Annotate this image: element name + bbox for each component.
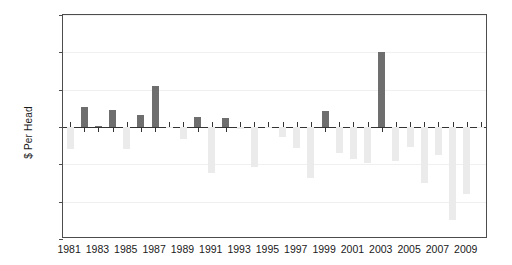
y-tick-mark bbox=[59, 90, 63, 91]
bar-1988 bbox=[166, 127, 173, 128]
x-tick-mark bbox=[113, 127, 114, 132]
bar-1989 bbox=[180, 127, 187, 139]
y-tick-mark bbox=[59, 127, 63, 128]
bar-2010 bbox=[477, 127, 484, 128]
x-tick-mark bbox=[98, 127, 99, 132]
bar-2009 bbox=[463, 127, 470, 194]
gridline bbox=[63, 52, 486, 53]
bar-1995 bbox=[265, 127, 272, 128]
x-tick-mark bbox=[141, 127, 142, 132]
bar-1997 bbox=[293, 127, 300, 148]
bar-2000 bbox=[336, 127, 343, 153]
y-tick-mark bbox=[59, 15, 63, 16]
bar-1987 bbox=[152, 86, 159, 127]
bar-2002 bbox=[364, 127, 371, 163]
bar-2008 bbox=[449, 127, 456, 220]
bar-2006 bbox=[421, 127, 428, 183]
chart-figure: $ Per Head 150100500−50−100−150 19811983… bbox=[0, 0, 512, 265]
bar-1982 bbox=[81, 107, 88, 127]
y-tick-mark bbox=[59, 164, 63, 165]
bar-1992 bbox=[222, 118, 229, 127]
x-tick-mark bbox=[382, 127, 383, 132]
plot-inner bbox=[63, 15, 486, 237]
gridline bbox=[63, 15, 486, 16]
x-tick-mark bbox=[84, 127, 85, 132]
bar-1986 bbox=[137, 115, 144, 127]
bar-1996 bbox=[279, 127, 286, 137]
x-tick-mark bbox=[198, 127, 199, 132]
bar-1983 bbox=[95, 126, 102, 127]
bar-2004 bbox=[392, 127, 399, 161]
bar-1981 bbox=[67, 127, 74, 149]
bar-2003 bbox=[378, 52, 385, 127]
gridline bbox=[63, 90, 486, 91]
bar-1991 bbox=[208, 127, 215, 173]
y-tick-mark bbox=[59, 239, 63, 240]
plot-area bbox=[62, 14, 487, 238]
y-tick-mark bbox=[59, 202, 63, 203]
bar-2001 bbox=[350, 127, 357, 159]
bar-1984 bbox=[109, 110, 116, 127]
x-tick-mark bbox=[226, 127, 227, 132]
bar-1999 bbox=[322, 111, 329, 127]
bar-1993 bbox=[237, 127, 244, 129]
x-tick-label: 2009 bbox=[446, 243, 486, 255]
bar-1998 bbox=[307, 127, 314, 178]
bar-1994 bbox=[251, 127, 258, 167]
gridline bbox=[63, 202, 486, 203]
bar-2005 bbox=[407, 127, 414, 147]
x-tick-mark bbox=[155, 127, 156, 132]
x-tick-mark bbox=[325, 127, 326, 132]
bar-1985 bbox=[123, 127, 130, 149]
y-axis-title: $ Per Head bbox=[20, 0, 38, 265]
bar-1990 bbox=[194, 117, 201, 127]
bar-2007 bbox=[435, 127, 442, 155]
y-tick-mark bbox=[59, 52, 63, 53]
